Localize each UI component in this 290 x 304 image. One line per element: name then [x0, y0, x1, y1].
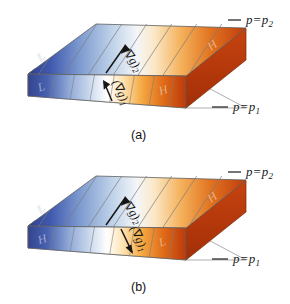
panel-a: L H L H (∇g)2 (∇g)1 p=p2 p=p1 (a): [0, 0, 290, 152]
panel-b-caption: (b): [131, 281, 146, 294]
isobar-label-p2-b: p=p2: [246, 165, 273, 181]
isobar-label-p1-a: p=p1: [233, 100, 260, 116]
isobar-label-p2-a: p=p2: [246, 13, 273, 29]
isobar-label-p1-b: p=p1: [233, 252, 260, 268]
panel-a-caption: (a): [131, 129, 146, 142]
figure-container: L H L H (∇g)2 (∇g)1 p=p2 p=p1 (a): [0, 0, 290, 304]
panel-b: L H H L (∇g)2 (∇g)1 p=p2 p=p1 (b): [0, 152, 290, 304]
